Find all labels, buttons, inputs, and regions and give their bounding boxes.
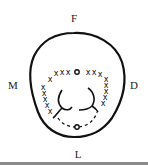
upper-circle-mark (75, 70, 79, 74)
diagram-drawing: x x x x x x x x x x x x x x x x x (0, 0, 148, 165)
svg-text:x: x (98, 70, 103, 79)
svg-text:x: x (48, 75, 53, 84)
svg-text:x: x (101, 99, 106, 108)
svg-text:x: x (54, 69, 59, 78)
label-right: D (130, 80, 138, 91)
tooth-section-diagram: x x x x x x x x x x x x x x x x x (0, 0, 148, 165)
svg-text:x: x (48, 107, 53, 116)
svg-text:x: x (86, 68, 91, 77)
right-branch-stroke (79, 88, 98, 112)
svg-text:x: x (66, 68, 71, 77)
right-cross-column: x x x x x (101, 75, 109, 108)
bottom-divider (0, 162, 148, 165)
svg-text:x: x (60, 68, 65, 77)
left-branch-stroke (53, 90, 72, 118)
label-left: M (8, 80, 18, 91)
svg-text:x: x (92, 68, 97, 77)
lower-circle-mark (75, 125, 79, 129)
label-bottom: L (75, 149, 82, 160)
left-cross-column: x x x x x (41, 83, 53, 116)
label-top: F (71, 13, 77, 24)
